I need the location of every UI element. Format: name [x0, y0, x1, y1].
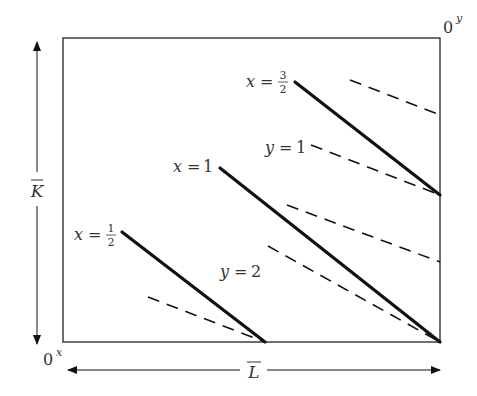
- svg-text:1: 1: [296, 138, 306, 157]
- svg-text:L: L: [247, 362, 259, 382]
- svg-text:=: =: [279, 138, 292, 157]
- label-y-2: y = 2: [219, 262, 261, 281]
- label-x-1: x = 1: [173, 157, 213, 176]
- label-y-1: y = 1: [264, 138, 306, 157]
- svg-text:=: =: [234, 262, 247, 281]
- y-isoquant-mid: [287, 205, 440, 262]
- svg-text:y: y: [455, 12, 463, 25]
- svg-text:y: y: [264, 138, 275, 157]
- svg-text:y: y: [219, 262, 230, 281]
- svg-text:K: K: [30, 181, 45, 201]
- origin-x: 0 x: [43, 346, 63, 369]
- svg-text:0: 0: [443, 18, 453, 37]
- svg-text:x: x: [173, 157, 182, 176]
- svg-text:x: x: [56, 346, 63, 359]
- svg-text:1: 1: [203, 157, 213, 176]
- y-isoquant-1: [311, 145, 440, 195]
- svg-text:1: 1: [108, 222, 115, 235]
- svg-text:2: 2: [251, 262, 261, 281]
- y-isoquant-low: [148, 297, 265, 342]
- svg-text:=: =: [260, 72, 273, 91]
- x-isoquant-half: [122, 232, 265, 342]
- edgeworth-box-diagram: K L 0 x 0 y x = 1 2 x =: [0, 0, 477, 396]
- origin-y: 0 y: [443, 12, 463, 37]
- y-isoquant-top: [350, 80, 440, 115]
- svg-text:x: x: [246, 72, 255, 91]
- svg-text:2: 2: [280, 83, 287, 96]
- y-isoquant-2: [268, 246, 440, 342]
- svg-text:=: =: [88, 225, 101, 244]
- l-axis-label: L: [247, 362, 261, 382]
- svg-text:=: =: [187, 157, 200, 176]
- x-isoquant-three-halves: [295, 82, 440, 195]
- label-x-three-halves: x = 3 2: [246, 69, 288, 96]
- k-axis-label: K: [30, 180, 45, 201]
- label-x-half: x = 1 2: [74, 222, 116, 249]
- svg-text:0: 0: [43, 350, 53, 369]
- svg-text:3: 3: [280, 69, 287, 82]
- x-isoquant-1: [220, 168, 440, 342]
- svg-text:2: 2: [108, 236, 115, 249]
- svg-text:x: x: [74, 225, 83, 244]
